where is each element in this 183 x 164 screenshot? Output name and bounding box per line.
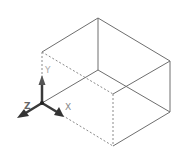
hidden-edges — [42, 52, 113, 146]
visible-edges — [42, 18, 170, 146]
z-axis-label: Z — [24, 101, 31, 111]
ucs-origin — [40, 101, 44, 105]
diagram-canvas: Y Z X — [0, 0, 183, 164]
edge-top-left — [42, 18, 98, 52]
x-axis-line — [42, 103, 57, 112]
edge-mid-right — [113, 61, 170, 94]
edge-bottom-right — [113, 112, 170, 146]
edge-top-right — [98, 18, 170, 61]
wireframe-box-diagram: Y Z X — [0, 0, 183, 164]
y-axis-label: Y — [44, 65, 51, 75]
y-axis-arrowhead — [39, 75, 46, 85]
ucs-axis-icon: Y Z X — [17, 65, 71, 118]
x-axis-label: X — [65, 102, 71, 112]
